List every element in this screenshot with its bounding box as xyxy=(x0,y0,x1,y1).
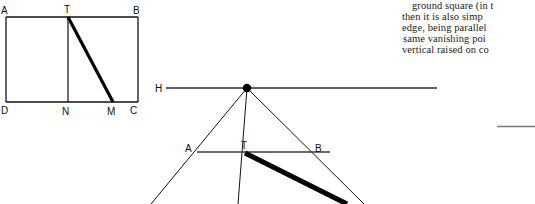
label-rect-T: T xyxy=(64,5,70,15)
perspective-vanishing-point-diagram xyxy=(151,84,437,204)
label-rect-C: C xyxy=(130,106,137,116)
label-rect-B: B xyxy=(133,6,140,16)
book-text-column: ground square (in t then it is also simp… xyxy=(402,0,535,70)
ray-right-outer xyxy=(247,88,364,204)
text-line: edge, being parallel xyxy=(402,22,535,33)
label-persp-A: A xyxy=(185,144,192,154)
vanishing-point-dot xyxy=(243,84,251,92)
label-rect-M: M xyxy=(107,107,115,117)
text-line: ground square (in t xyxy=(402,0,535,11)
heavy-diagonal-TM xyxy=(68,17,113,102)
label-persp-H: H xyxy=(155,84,162,94)
heavy-diagonal-perspective xyxy=(245,153,347,204)
label-rect-N: N xyxy=(62,107,69,117)
label-rect-D: D xyxy=(1,106,8,116)
page-canvas: A T B D N M C H A T B ground square (in … xyxy=(0,0,535,204)
text-line: same vanishing poi xyxy=(402,33,535,44)
label-rect-A: A xyxy=(1,6,8,16)
ray-left-outer xyxy=(151,88,247,204)
label-persp-T: T xyxy=(241,141,247,151)
label-persp-B: B xyxy=(315,144,322,154)
text-line: vertical raised on co xyxy=(402,44,535,55)
text-line: then it is also simp xyxy=(402,11,535,22)
elevation-rectangle-diagram xyxy=(6,17,138,102)
